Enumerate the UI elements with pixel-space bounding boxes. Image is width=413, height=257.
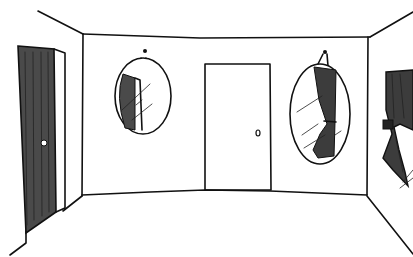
- back-wall-left-corner: [82, 34, 83, 196]
- left-mirror-nail-icon: [143, 49, 147, 53]
- room-sketch: [0, 0, 413, 257]
- curtain-tie-icon: [383, 120, 393, 129]
- right-mirror-nail-icon: [323, 50, 327, 54]
- back-wall-right-corner: [367, 37, 368, 195]
- right-mirror-curtain-tie: [324, 121, 336, 122]
- left-door-knob-icon: [41, 140, 47, 146]
